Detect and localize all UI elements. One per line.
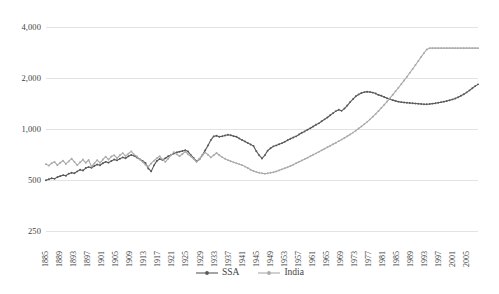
data-point-marker — [187, 153, 189, 155]
legend-item-india[interactable]: India — [257, 268, 304, 278]
data-point-marker — [73, 161, 75, 163]
data-point-marker — [324, 148, 326, 150]
data-point-marker — [122, 156, 124, 158]
data-point-marker — [278, 143, 280, 145]
data-point-marker — [156, 160, 158, 162]
data-point-marker — [159, 158, 161, 160]
x-axis-tick-label: 1965 — [323, 251, 331, 267]
series-line — [46, 84, 478, 180]
data-point-marker — [338, 109, 340, 111]
data-point-marker — [264, 154, 266, 156]
x-axis-tick-label: 1989 — [407, 251, 415, 267]
data-point-marker — [213, 154, 215, 156]
data-point-marker — [210, 156, 212, 158]
data-point-marker — [110, 160, 112, 162]
data-point-marker — [326, 117, 328, 119]
data-point-marker — [383, 96, 385, 98]
legend-label: SSA — [222, 268, 239, 278]
data-point-marker — [241, 164, 243, 166]
x-axis-tick-label: 1961 — [309, 251, 317, 267]
data-point-marker — [372, 116, 374, 118]
data-point-marker — [315, 124, 317, 126]
data-point-marker — [244, 140, 246, 142]
x-axis-tick-label: 1941 — [239, 251, 247, 267]
data-point-marker — [181, 150, 183, 152]
data-point-marker — [201, 154, 203, 156]
data-point-marker — [253, 170, 255, 172]
data-point-marker — [369, 118, 371, 120]
data-point-marker — [102, 159, 104, 161]
data-point-marker — [119, 154, 121, 156]
data-point-marker — [250, 169, 252, 171]
data-point-marker — [403, 101, 405, 103]
data-point-marker — [213, 135, 215, 137]
x-axis-tick-label: 2001 — [449, 251, 457, 267]
data-point-marker — [315, 152, 317, 154]
data-point-marker — [361, 125, 363, 127]
data-point-marker — [349, 134, 351, 136]
data-point-marker — [355, 130, 357, 132]
data-point-marker — [477, 83, 479, 85]
data-point-marker — [218, 136, 220, 138]
data-point-marker — [102, 162, 104, 164]
data-point-marker — [91, 166, 93, 168]
data-point-marker — [463, 93, 465, 95]
data-point-marker — [332, 143, 334, 145]
data-point-marker — [96, 164, 98, 166]
data-point-marker — [295, 162, 297, 164]
data-point-marker — [451, 47, 453, 49]
data-point-marker — [335, 110, 337, 112]
data-point-marker — [304, 158, 306, 160]
data-point-marker — [190, 156, 192, 158]
series-india — [45, 47, 479, 174]
data-point-marker — [253, 145, 255, 147]
data-point-marker — [415, 64, 417, 66]
x-axis-tick-label: 1969 — [337, 251, 345, 267]
data-point-marker — [363, 91, 365, 93]
data-point-marker — [409, 102, 411, 104]
data-point-marker — [469, 47, 471, 49]
data-point-marker — [449, 47, 451, 49]
data-point-marker — [312, 126, 314, 128]
data-point-marker — [372, 92, 374, 94]
gridline — [46, 231, 478, 232]
data-point-marker — [270, 147, 272, 149]
data-point-marker — [454, 47, 456, 49]
data-point-marker — [116, 157, 118, 159]
data-point-marker — [321, 120, 323, 122]
data-point-marker — [255, 150, 257, 152]
data-point-marker — [272, 145, 274, 147]
data-point-marker — [247, 167, 249, 169]
data-point-marker — [79, 161, 81, 163]
data-point-marker — [224, 158, 226, 160]
x-axis-tick-label: 1913 — [140, 251, 148, 267]
data-point-marker — [54, 161, 56, 163]
data-point-marker — [318, 122, 320, 124]
legend-swatch-icon — [195, 268, 219, 278]
data-point-marker — [170, 154, 172, 156]
legend-item-ssa[interactable]: SSA — [195, 268, 239, 278]
data-point-marker — [56, 176, 58, 178]
data-point-marker — [358, 128, 360, 130]
data-point-marker — [147, 168, 149, 170]
data-point-marker — [76, 170, 78, 172]
data-point-marker — [51, 162, 53, 164]
x-axis-tick-label: 1945 — [253, 251, 261, 267]
data-point-marker — [397, 87, 399, 89]
y-axis: 4,0002,0001,000500250 — [0, 0, 41, 294]
data-point-marker — [130, 150, 132, 152]
data-point-marker — [287, 139, 289, 141]
data-point-marker — [71, 158, 73, 160]
data-point-marker — [79, 169, 81, 171]
data-point-marker — [366, 91, 368, 93]
data-point-marker — [420, 56, 422, 58]
data-point-marker — [110, 156, 112, 158]
data-point-marker — [400, 83, 402, 85]
data-point-marker — [298, 134, 300, 136]
data-point-marker — [386, 97, 388, 99]
y-axis-tick-label: 500 — [28, 175, 41, 185]
x-axis-tick-label: 1925 — [182, 251, 190, 267]
data-point-marker — [301, 160, 303, 162]
data-point-marker — [230, 160, 232, 162]
data-point-marker — [179, 155, 181, 157]
